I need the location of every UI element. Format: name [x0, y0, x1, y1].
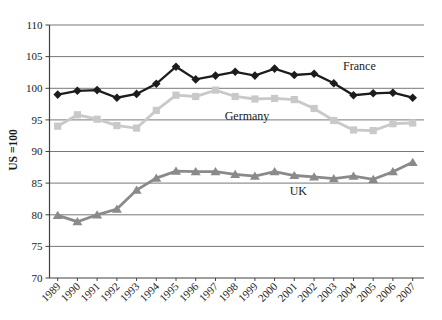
marker-diamond: [389, 88, 398, 97]
marker-square: [212, 87, 219, 94]
marker-diamond: [231, 68, 240, 77]
y-tick-label: 100: [26, 82, 43, 94]
x-tick-label: 1990: [58, 280, 82, 304]
x-tick-label: 2005: [354, 280, 378, 304]
marker-square: [409, 119, 416, 126]
x-tick-label: 1991: [78, 280, 102, 304]
marker-square: [153, 107, 160, 114]
marker-square: [330, 117, 337, 124]
x-tick-label: 2004: [334, 280, 358, 304]
marker-square: [350, 126, 357, 133]
marker-diamond: [290, 71, 299, 80]
marker-square: [54, 123, 61, 130]
x-tick-label: 1992: [98, 280, 122, 304]
figure-canvas: 7075808590951001051101989199019911992199…: [0, 0, 442, 320]
x-tick-label: 2000: [255, 280, 279, 304]
y-tick-label: 95: [32, 114, 44, 126]
x-tick-label: 1996: [177, 280, 201, 304]
marker-square: [94, 116, 101, 123]
marker-square: [271, 95, 278, 102]
x-tick-label: 1993: [117, 280, 141, 304]
marker-triangle: [408, 158, 418, 166]
marker-square: [74, 111, 81, 118]
series-label-uk: UK: [290, 184, 308, 198]
marker-diamond: [93, 86, 102, 95]
line-chart: 7075808590951001051101989199019911992199…: [0, 0, 442, 320]
x-tick-label: 2002: [295, 280, 319, 304]
x-tick-label: 1999: [236, 280, 260, 304]
marker-square: [133, 125, 140, 132]
x-tick-label: 2006: [374, 280, 398, 304]
marker-diamond: [369, 89, 378, 98]
marker-diamond: [211, 71, 220, 80]
y-tick-label: 75: [32, 240, 44, 252]
marker-square: [251, 95, 258, 102]
marker-diamond: [53, 90, 62, 99]
x-tick-label: 1998: [216, 280, 240, 304]
x-tick-label: 2001: [275, 280, 299, 304]
marker-square: [291, 96, 298, 103]
marker-square: [389, 120, 396, 127]
marker-diamond: [310, 69, 319, 78]
marker-diamond: [251, 71, 260, 80]
x-tick-label: 1997: [196, 280, 220, 304]
marker-diamond: [270, 64, 279, 73]
y-tick-label: 90: [32, 145, 44, 157]
x-tick-label: 2003: [315, 280, 339, 304]
marker-square: [172, 92, 179, 99]
y-tick-label: 85: [32, 177, 44, 189]
marker-square: [311, 105, 318, 112]
marker-square: [232, 93, 239, 100]
marker-diamond: [132, 90, 141, 99]
y-tick-label: 105: [26, 50, 43, 62]
y-tick-label: 80: [32, 209, 44, 221]
y-axis-title: US =100: [7, 129, 19, 171]
series-label-france: France: [343, 59, 376, 73]
series-label-germany: Germany: [225, 109, 270, 123]
y-tick-label: 70: [32, 272, 44, 284]
marker-diamond: [73, 87, 82, 96]
marker-square: [370, 127, 377, 134]
marker-square: [113, 122, 120, 129]
x-tick-label: 1995: [157, 280, 181, 304]
x-tick-label: 1994: [137, 280, 161, 304]
marker-diamond: [113, 93, 122, 102]
marker-square: [192, 93, 199, 100]
y-tick-label: 110: [26, 19, 43, 31]
marker-diamond: [408, 93, 417, 102]
x-tick-label: 2007: [394, 280, 418, 304]
